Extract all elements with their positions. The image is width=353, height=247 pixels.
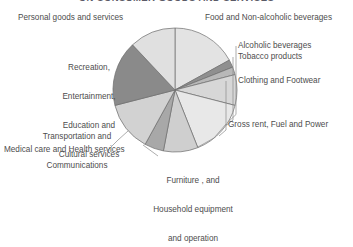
slice-label-transportation-line2: Communications	[16, 161, 138, 171]
slice-label-recreation-line2: Entertainment,	[31, 92, 147, 102]
slice-label-gross-rent: Gross rent, Fuel and Power	[228, 120, 328, 130]
slice-label-furniture-line1: Furniture , and	[134, 176, 252, 186]
slice-label-tobacco-text: Tobacco products	[238, 52, 302, 61]
slice-label-medical-care: Medical care and Health services	[4, 145, 125, 155]
slice-label-alcoholic-text: Alcoholic beverages	[238, 41, 311, 50]
slice-label-personal-goods-text: Personal goods and services	[18, 13, 123, 22]
slice-label-gross-rent-text: Gross rent, Fuel and Power	[228, 120, 328, 129]
slice-label-furniture: Furniture , and Household equipment and …	[134, 157, 252, 247]
slice-label-clothing: Clothing and Footwear	[238, 76, 320, 86]
slice-label-clothing-text: Clothing and Footwear	[238, 76, 320, 85]
slice-label-food-text: Food and Non-alcoholic beverages	[205, 13, 332, 22]
slice-label-personal-goods: Personal goods and services	[18, 13, 123, 23]
slice-label-transportation-line1: Transportation and	[16, 132, 138, 142]
slice-label-alcoholic: Alcoholic beverages	[238, 41, 311, 51]
slice-label-recreation-line1: Recreation,	[31, 63, 147, 73]
slice-label-furniture-line2: Household equipment	[134, 205, 252, 215]
slice-label-medical-care-text: Medical care and Health services	[4, 145, 125, 154]
slice-label-food: Food and Non-alcoholic beverages	[205, 13, 332, 23]
slice-label-furniture-line3: and operation	[134, 234, 252, 244]
slice-label-tobacco: Tobacco products	[238, 52, 302, 62]
